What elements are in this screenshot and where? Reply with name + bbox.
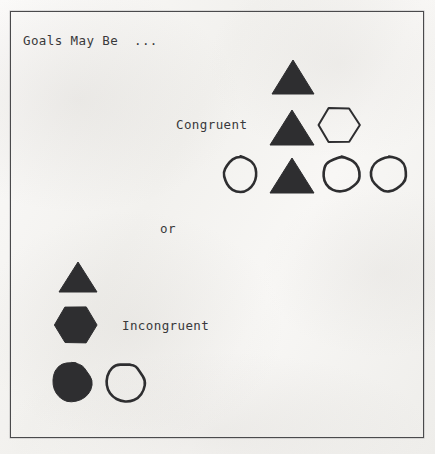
or-connector-label: or — [160, 221, 176, 236]
circle-outline-bottom-left — [221, 155, 260, 194]
circle-outline-bottom-right — [369, 154, 409, 194]
hexagon-filled — [53, 303, 98, 347]
figure-title: Goals May Be ... — [23, 33, 158, 48]
triangle-filled — [58, 261, 98, 293]
figure-canvas: Goals May Be ... Congruent or Incongruen… — [0, 0, 435, 454]
triangle-filled-top — [271, 59, 315, 95]
hexagon-outline-middle — [317, 104, 361, 146]
circle-outline-right — [103, 361, 147, 405]
triangle-filled-bottom — [269, 157, 315, 194]
congruent-group-label: Congruent — [176, 117, 247, 132]
triangle-filled-middle — [269, 109, 315, 146]
incongruent-group-label: Incongruent — [122, 318, 209, 333]
circle-filled — [49, 360, 94, 405]
circle-outline-bottom-mid — [321, 154, 362, 194]
